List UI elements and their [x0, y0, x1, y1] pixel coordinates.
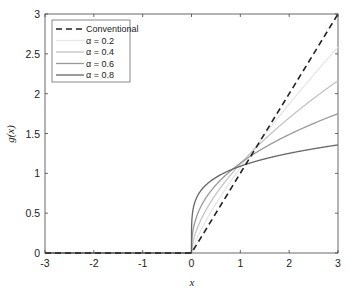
- legend-label: Conventional: [86, 24, 139, 34]
- legend: Conventionalα = 0.2α = 0.4α = 0.6α = 0.8: [52, 20, 139, 82]
- legend-label: α = 0.8: [86, 70, 114, 80]
- y-tick-label: 3: [34, 8, 40, 20]
- y-tick-label: 0.5: [25, 207, 40, 219]
- y-tick-label: 1: [34, 167, 40, 179]
- x-tick-label: 2: [286, 257, 292, 269]
- x-tick-label: -3: [40, 257, 49, 269]
- legend-label: α = 0.2: [86, 36, 114, 46]
- line-chart: -3-2-1012300.511.522.53 Conventionalα = …: [0, 0, 349, 291]
- x-tick-label: 1: [237, 257, 243, 269]
- y-tick-label: 2: [34, 88, 40, 100]
- x-tick-label: -2: [89, 257, 98, 269]
- y-tick-label: 0: [34, 247, 40, 259]
- x-tick-label: 0: [189, 257, 195, 269]
- legend-label: α = 0.4: [86, 47, 114, 57]
- y-tick-label: 2.5: [25, 48, 40, 60]
- x-axis-label: x: [189, 276, 195, 288]
- x-tick-label: -1: [138, 257, 147, 269]
- y-axis-label: g(x): [4, 125, 17, 143]
- legend-label: α = 0.6: [86, 59, 114, 69]
- y-tick-label: 1.5: [25, 128, 40, 140]
- x-tick-label: 3: [335, 257, 341, 269]
